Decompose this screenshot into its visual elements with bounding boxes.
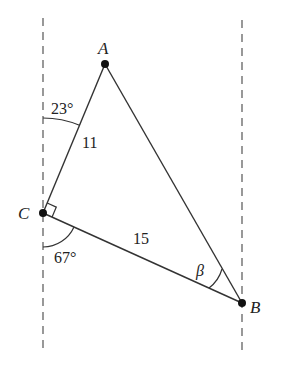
label-a: A (97, 39, 109, 58)
triangle-diagram: A B C 11 15 23° 67° β (0, 0, 281, 365)
side-ac-length: 11 (82, 134, 97, 151)
point-c (39, 209, 47, 217)
angle-arc-beta (209, 269, 222, 288)
angle-arc-67 (43, 227, 74, 247)
angle-label-beta: β (195, 262, 204, 280)
point-b (238, 299, 246, 307)
point-a (101, 60, 109, 68)
label-c: C (18, 204, 30, 223)
angle-label-67: 67° (54, 249, 76, 266)
side-cb-length: 15 (133, 230, 149, 247)
label-b: B (250, 298, 261, 317)
angle-label-23: 23° (51, 100, 73, 117)
side-ab (105, 64, 242, 303)
angle-arc-23 (43, 118, 80, 125)
